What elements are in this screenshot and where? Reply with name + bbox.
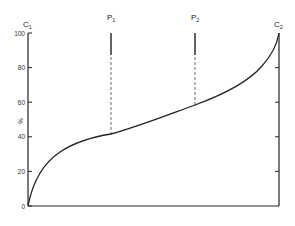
curve-line — [28, 33, 279, 206]
ytick-40: 40 — [18, 133, 26, 140]
p1-label: P1 — [107, 13, 115, 23]
ytick-60: 60 — [18, 99, 26, 106]
chart-canvas: 0 20 40 60 80 100 % C1 C2 P1 P2 — [0, 0, 295, 226]
c1-label: C1 — [23, 20, 32, 30]
ytick-80: 80 — [18, 64, 26, 71]
y-axis-label: % — [17, 118, 24, 124]
p2-label: P2 — [191, 13, 199, 23]
ytick-0: 0 — [21, 203, 25, 210]
ytick-100: 100 — [14, 30, 25, 37]
c2-label: C2 — [274, 20, 283, 30]
ytick-20: 20 — [18, 168, 26, 175]
